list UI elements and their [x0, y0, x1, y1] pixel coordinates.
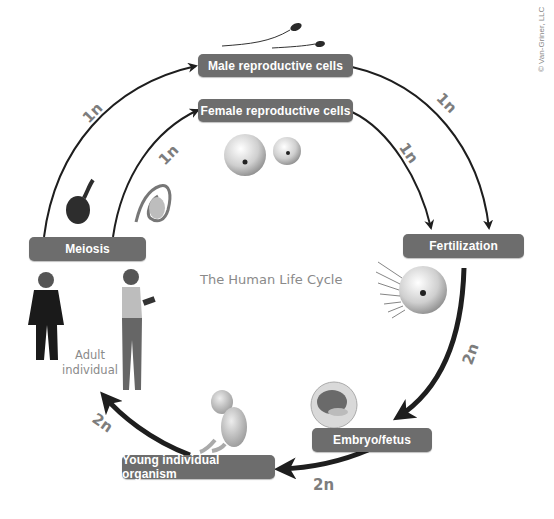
- adult-male-icon: [28, 272, 64, 360]
- adult-female-icon: [122, 269, 156, 390]
- arrow-young-to-adult: [104, 396, 190, 455]
- embryo-fetus-label: Embryo/fetus: [312, 428, 432, 452]
- fertilization-label: Fertilization: [403, 234, 524, 258]
- life-cycle-diagram: Male reproductive cells Female reproduct…: [0, 0, 554, 519]
- young-individual-organism-label: Young individual organism: [122, 455, 275, 479]
- arrow-embryo-to-young: [280, 450, 368, 469]
- adult-label-line1: Adult: [60, 348, 120, 363]
- arrow-female-to-fertilization: [352, 112, 431, 228]
- ploidy-embryo-young: 2n: [313, 476, 334, 494]
- egg-cells-icon: [224, 134, 301, 176]
- ovary-icon: [136, 186, 170, 222]
- fetus-icon: [200, 390, 247, 452]
- meiosis-label: Meiosis: [29, 237, 146, 261]
- sperm-icon: [222, 21, 325, 48]
- copyright-notice: © Van-Griner, LLC: [537, 7, 546, 72]
- testis-icon: [66, 180, 93, 224]
- diagram-title: The Human Life Cycle: [200, 272, 342, 287]
- male-reproductive-cells-label: Male reproductive cells: [198, 54, 353, 77]
- fertilized-egg-icon: [376, 262, 447, 318]
- adult-individual-label: Adult individual: [60, 348, 120, 378]
- female-reproductive-cells-label: Female reproductive cells: [198, 99, 353, 122]
- arrow-male-to-fertilization: [352, 67, 489, 228]
- embryo-icon: [311, 382, 357, 428]
- adult-label-line2: individual: [60, 363, 120, 378]
